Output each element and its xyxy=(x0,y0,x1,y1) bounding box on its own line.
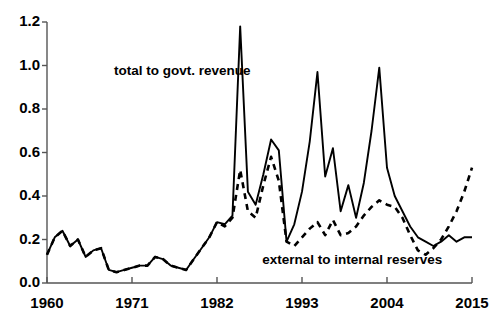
y-axis-tick-label: 0.0 xyxy=(0,273,40,290)
y-axis-tick-label: 0.2 xyxy=(0,230,40,247)
y-axis-tick-label: 0.6 xyxy=(0,143,40,160)
chart-container: 0.00.20.40.60.81.01.2 196019711982199320… xyxy=(0,0,491,330)
x-axis-tick-label: 1960 xyxy=(17,294,77,311)
y-axis-tick-label: 1.0 xyxy=(0,56,40,73)
chart-plot-area xyxy=(0,0,491,330)
series-line-0 xyxy=(47,26,472,272)
x-axis-tick-label: 2004 xyxy=(357,294,417,311)
series-annotation-label: total to govt. revenue xyxy=(114,63,251,78)
y-axis-tick-label: 1.2 xyxy=(0,12,40,29)
axis-lines xyxy=(47,22,472,283)
x-axis-tick-label: 1993 xyxy=(272,294,332,311)
x-axis-tick-label: 1971 xyxy=(102,294,162,311)
x-axis-tick-label: 2015 xyxy=(442,294,491,311)
y-axis-tick-label: 0.4 xyxy=(0,186,40,203)
y-axis-tick-label: 0.8 xyxy=(0,99,40,116)
x-axis-ticks xyxy=(47,277,472,283)
x-axis-tick-label: 1982 xyxy=(187,294,247,311)
series-annotation-label: external to internal reserves xyxy=(262,252,442,267)
y-axis-ticks xyxy=(42,22,47,283)
data-series-layer xyxy=(47,26,472,272)
